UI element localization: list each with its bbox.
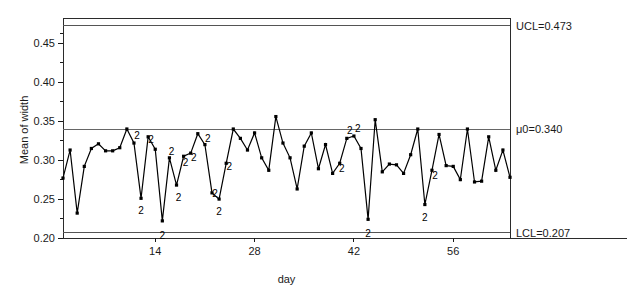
data-point-marker bbox=[303, 145, 306, 148]
data-point-marker bbox=[345, 137, 348, 140]
violation-label: 2 bbox=[355, 123, 361, 134]
y-tick-label: 0.35 bbox=[34, 115, 55, 127]
data-point-marker bbox=[90, 147, 93, 150]
data-point-marker bbox=[288, 156, 291, 159]
data-point-marker bbox=[267, 169, 270, 172]
data-point-marker bbox=[395, 163, 398, 166]
data-point-marker bbox=[437, 133, 440, 136]
data-point-marker bbox=[381, 170, 384, 173]
data-point-marker bbox=[281, 141, 284, 144]
data-point-marker bbox=[388, 162, 391, 165]
data-point-marker bbox=[161, 219, 164, 222]
data-point-marker bbox=[132, 141, 135, 144]
violation-label: 2 bbox=[148, 134, 154, 145]
data-point-marker bbox=[423, 203, 426, 206]
data-point-marker bbox=[253, 131, 256, 134]
violation-label: 2 bbox=[134, 130, 140, 141]
data-series-line bbox=[63, 117, 510, 221]
data-point-marker bbox=[274, 115, 277, 118]
violation-label: 2 bbox=[183, 157, 189, 168]
data-point-marker bbox=[445, 164, 448, 167]
data-point-marker bbox=[260, 156, 263, 159]
violation-label: 2 bbox=[191, 152, 197, 163]
data-point-marker bbox=[359, 147, 362, 150]
violation-label: 2 bbox=[422, 212, 428, 223]
x-axis-title: day bbox=[278, 273, 296, 285]
data-point-marker bbox=[61, 176, 64, 179]
data-point-marker bbox=[459, 178, 462, 181]
data-point-marker bbox=[139, 197, 142, 200]
y-tick-label: 0.45 bbox=[34, 37, 55, 49]
y-axis-title: Mean of width bbox=[18, 96, 30, 164]
violation-label: 2 bbox=[205, 133, 211, 144]
violation-label: 2 bbox=[216, 206, 222, 217]
x-tick-label: 56 bbox=[447, 245, 459, 257]
data-point-marker bbox=[296, 187, 299, 190]
data-point-marker bbox=[508, 176, 511, 179]
violation-label: 2 bbox=[212, 188, 218, 199]
data-point-marker bbox=[480, 180, 483, 183]
data-point-marker bbox=[239, 137, 242, 140]
x-tick-label: 42 bbox=[348, 245, 360, 257]
lcl-annotation: LCL=0.207 bbox=[516, 227, 570, 239]
violation-label: 2 bbox=[365, 228, 371, 239]
data-point-marker bbox=[494, 169, 497, 172]
data-point-marker bbox=[366, 218, 369, 221]
data-point-marker bbox=[232, 127, 235, 130]
ucl-annotation: UCL=0.473 bbox=[516, 20, 572, 32]
data-point-marker bbox=[466, 127, 469, 130]
data-point-marker bbox=[111, 149, 114, 152]
data-point-marker bbox=[217, 197, 220, 200]
data-point-marker bbox=[118, 146, 121, 149]
y-tick-label: 0.30 bbox=[34, 154, 55, 166]
data-point-marker bbox=[104, 149, 107, 152]
data-point-marker bbox=[374, 118, 377, 121]
y-tick-label: 0.25 bbox=[34, 193, 55, 205]
violation-label: 2 bbox=[176, 192, 182, 203]
data-point-marker bbox=[352, 134, 355, 137]
data-point-marker bbox=[125, 127, 128, 130]
data-point-marker bbox=[416, 127, 419, 130]
violation-label: 2 bbox=[432, 170, 438, 181]
data-point-marker bbox=[83, 165, 86, 168]
data-point-marker bbox=[310, 131, 313, 134]
data-point-marker bbox=[68, 148, 71, 151]
data-point-marker bbox=[501, 148, 504, 151]
violation-label: 2 bbox=[138, 205, 144, 216]
violation-label: 2 bbox=[339, 163, 345, 174]
data-point-marker bbox=[324, 143, 327, 146]
x-tick-label: 28 bbox=[248, 245, 260, 257]
data-point-marker bbox=[246, 148, 249, 151]
data-point-marker bbox=[196, 132, 199, 135]
data-point-marker bbox=[76, 211, 79, 214]
violation-label: 2 bbox=[347, 125, 353, 136]
chart-canvas: 0.200.250.300.350.400.4514284256dayMean … bbox=[0, 0, 638, 302]
data-point-marker bbox=[452, 165, 455, 168]
data-point-marker bbox=[331, 172, 334, 175]
data-point-marker bbox=[175, 183, 178, 186]
control-chart: 0.200.250.300.350.400.4514284256dayMean … bbox=[0, 0, 638, 302]
data-point-marker bbox=[154, 148, 157, 151]
violation-label: 2 bbox=[160, 230, 166, 241]
data-point-marker bbox=[487, 135, 490, 138]
data-point-marker bbox=[409, 153, 412, 156]
data-point-marker bbox=[317, 167, 320, 170]
data-point-marker bbox=[97, 142, 100, 145]
y-tick-label: 0.40 bbox=[34, 76, 55, 88]
violation-label: 2 bbox=[226, 161, 232, 172]
center-annotation: μ0=0.340 bbox=[516, 123, 562, 135]
x-tick-label: 14 bbox=[149, 245, 161, 257]
violation-label: 2 bbox=[169, 146, 175, 157]
y-tick-label: 0.20 bbox=[34, 232, 55, 244]
data-point-marker bbox=[402, 172, 405, 175]
data-point-marker bbox=[473, 180, 476, 183]
